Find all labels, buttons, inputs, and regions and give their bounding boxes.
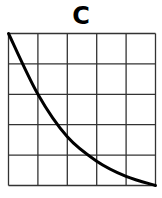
grid-lines	[9, 34, 156, 186]
data-curve	[9, 34, 156, 186]
chart-plot-area	[0, 0, 162, 198]
